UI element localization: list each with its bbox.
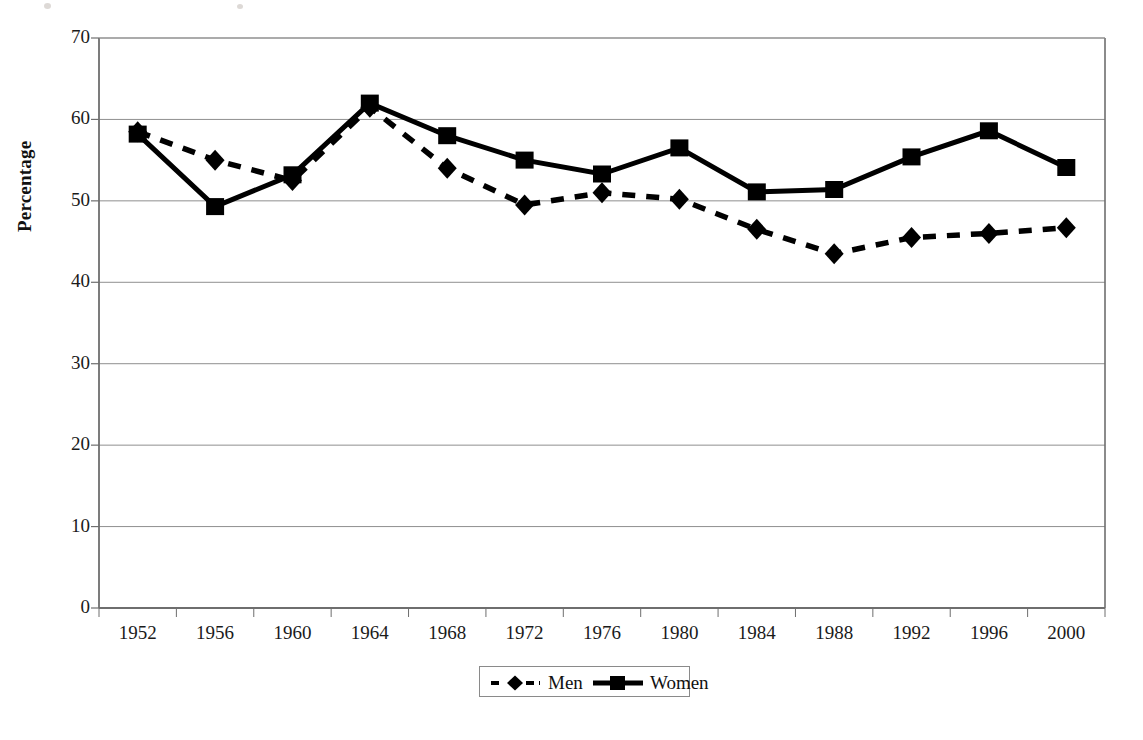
diamond-marker-icon [490,674,542,692]
data-point-men-1984 [747,219,766,240]
x-tick-label-1968: 1968 [407,622,487,644]
legend-label-women: Women [650,672,709,694]
scan-speck [44,3,51,9]
data-point-women-1976 [593,166,611,183]
y-tick-label-10: 10 [44,515,90,537]
plot-frame [99,38,1105,608]
data-point-women-1980 [670,139,688,156]
scan-speck [237,4,243,9]
x-tick-label-1960: 1960 [252,622,332,644]
y-tick-label-70: 70 [44,26,90,48]
data-point-women-1992 [903,148,921,165]
x-tick-label-1964: 1964 [330,622,410,644]
y-axis-title: Percentage [14,72,44,232]
x-tick-label-1980: 1980 [639,622,719,644]
data-point-women-1988 [825,181,843,198]
data-point-women-1984 [748,183,766,200]
legend-item-women[interactable]: Women [592,667,709,698]
data-point-women-1964 [361,95,379,112]
x-tick-label-1992: 1992 [872,622,952,644]
legend-label-men: Men [548,672,583,694]
square-marker-icon [592,674,644,692]
data-point-women-2000 [1057,159,1075,176]
y-tick-label-0: 0 [44,596,90,618]
gridlines-group [99,38,1105,608]
y-tick-label-60: 60 [44,107,90,129]
chart-container: Percentage 010203040506070 1952195619601… [0,0,1143,740]
data-point-women-1968 [438,127,456,144]
x-tick-label-1988: 1988 [794,622,874,644]
data-point-men-1968 [438,158,457,179]
x-tick-label-1976: 1976 [562,622,642,644]
x-tick-label-2000: 2000 [1026,622,1106,644]
x-tick-label-1952: 1952 [98,622,178,644]
chart-legend: Men Women [479,666,690,697]
data-series-layer [128,95,1076,265]
data-point-women-1952 [129,126,147,143]
data-point-men-1992 [902,227,921,248]
x-axis-tick-marks [91,38,1105,617]
data-point-women-1956 [206,198,224,215]
data-point-men-1976 [593,182,612,203]
x-tick-label-1996: 1996 [949,622,1029,644]
data-point-women-1972 [516,152,534,169]
x-tick-label-1956: 1956 [175,622,255,644]
y-tick-label-20: 20 [44,433,90,455]
data-point-men-2000 [1057,217,1076,238]
data-point-men-1988 [825,243,844,264]
y-tick-label-30: 30 [44,352,90,374]
x-tick-label-1972: 1972 [485,622,565,644]
y-axis-title-text: Percentage [14,141,36,232]
data-point-men-1972 [515,194,534,215]
x-tick-label-1984: 1984 [717,622,797,644]
y-tick-label-40: 40 [44,270,90,292]
data-point-women-1996 [980,122,998,139]
data-point-men-1956 [206,150,225,171]
legend-item-men[interactable]: Men [490,667,583,698]
data-point-men-1996 [979,223,998,244]
data-point-men-1980 [670,189,689,210]
data-point-women-1960 [284,166,302,183]
y-tick-label-50: 50 [44,189,90,211]
